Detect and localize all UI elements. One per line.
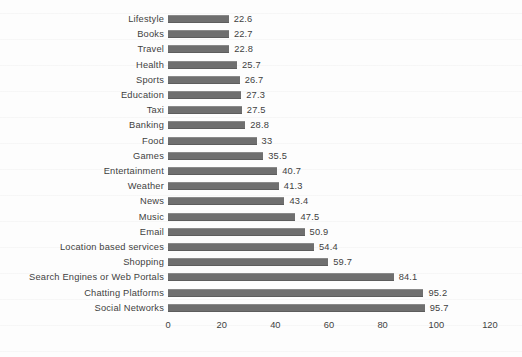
bar-rect[interactable] — [168, 76, 240, 84]
bar-rect[interactable] — [168, 152, 263, 160]
bar-rect[interactable] — [168, 121, 245, 129]
bar-chart-figure: Lifestyle22.6Books22.7Travel22.8Health25… — [0, 0, 522, 357]
x-axis-tick-label: 120 — [482, 318, 498, 332]
bar-rect[interactable] — [168, 304, 425, 312]
bar-category-label: Social Networks — [95, 299, 164, 317]
bar-rect[interactable] — [168, 15, 229, 23]
x-axis-tick-label: 80 — [377, 318, 387, 332]
bar-rect[interactable] — [168, 61, 237, 69]
bar-rect[interactable] — [168, 289, 423, 297]
plot-area: Lifestyle22.6Books22.7Travel22.8Health25… — [0, 0, 522, 357]
bar-rect[interactable] — [168, 167, 277, 175]
bar-rect[interactable] — [168, 228, 305, 236]
bar-rect[interactable] — [168, 243, 314, 251]
bar-rect[interactable] — [168, 258, 328, 266]
x-axis-tick-label: 20 — [216, 318, 226, 332]
x-axis: 020406080100120 — [0, 318, 522, 338]
bar-rect[interactable] — [168, 30, 229, 38]
bar-value-label: 95.7 — [430, 299, 449, 317]
x-axis-tick-label: 60 — [324, 318, 334, 332]
bar-rect[interactable] — [168, 45, 229, 53]
bar-rect[interactable] — [168, 182, 279, 190]
bar-rect[interactable] — [168, 106, 242, 114]
x-axis-tick-label: 100 — [429, 318, 445, 332]
bar-rect[interactable] — [168, 197, 284, 205]
bar-row: Social Networks95.7 — [0, 299, 522, 317]
bar-rect[interactable] — [168, 91, 241, 99]
bar-rect[interactable] — [168, 137, 257, 145]
x-axis-tick-label: 0 — [165, 318, 170, 332]
x-axis-tick-label: 40 — [270, 318, 280, 332]
bar-rect[interactable] — [168, 273, 394, 281]
bar-rect[interactable] — [168, 213, 295, 221]
bar-track — [168, 299, 425, 317]
